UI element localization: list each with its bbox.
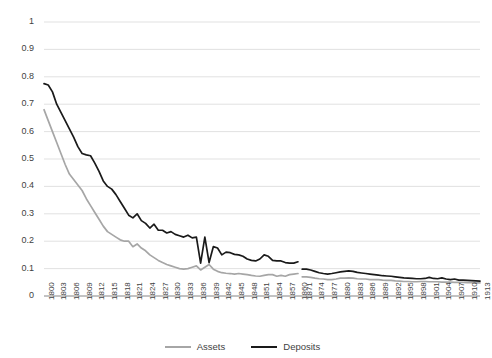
- x-axis-tick-label: 1815: [111, 282, 119, 300]
- y-axis-tick-label: 0.9: [4, 44, 34, 53]
- x-axis-tick-label: 1848: [251, 282, 259, 300]
- gridlines: [44, 22, 480, 269]
- y-axis-tick-label: 1: [4, 17, 34, 26]
- x-axis-tick-label: 1871: [306, 282, 314, 300]
- x-axis-tick-label: 1883: [357, 282, 365, 300]
- y-axis-tick-label: 0.3: [4, 209, 34, 218]
- x-axis-tick-label: 1806: [73, 282, 81, 300]
- x-axis-tick-label: 1830: [174, 282, 182, 300]
- legend-swatch-assets: [165, 346, 191, 348]
- y-axis-tick-label: 0.1: [4, 264, 34, 273]
- y-axis-tick-label: 0.6: [4, 127, 34, 136]
- x-axis-tick-label: 1821: [136, 282, 144, 300]
- x-axis-tick-label: 1851: [263, 282, 271, 300]
- x-axis-tick-label: 1904: [445, 282, 453, 300]
- x-axis-tick-label: 1818: [124, 282, 132, 300]
- x-axis-tick-label: 1800: [48, 282, 56, 300]
- x-axis-tick-label: 1836: [200, 282, 208, 300]
- legend-item-assets[interactable]: Assets: [165, 342, 226, 352]
- data-series-group: [44, 84, 480, 283]
- series-line-deposits: [44, 84, 298, 263]
- y-axis-tick-label: 0.5: [4, 154, 34, 163]
- y-axis-tick-label: 0: [4, 291, 34, 300]
- x-axis-tick-label: 1824: [149, 282, 157, 300]
- x-axis-tick-label: 1833: [187, 282, 195, 300]
- x-axis-tick-label: 1803: [60, 282, 68, 300]
- legend-label-deposits: Deposits: [283, 342, 320, 352]
- legend-item-deposits[interactable]: Deposits: [251, 342, 320, 352]
- y-axis-tick-label: 0.4: [4, 181, 34, 190]
- x-axis-tick-label: 1809: [86, 282, 94, 300]
- chart-legend: Assets Deposits: [0, 342, 485, 352]
- y-axis-tick-label: 0.2: [4, 236, 34, 245]
- x-axis-tick-label: 1827: [162, 282, 170, 300]
- series-line-assets: [44, 110, 298, 277]
- x-axis-tick-label: 1886: [369, 282, 377, 300]
- x-axis-tick-label: 1857: [289, 282, 297, 300]
- x-axis-tick-label: 1892: [395, 282, 403, 300]
- x-axis-tick-label: 1845: [238, 282, 246, 300]
- x-axis-tick-label: 1854: [276, 282, 284, 300]
- legend-swatch-deposits: [251, 346, 277, 348]
- x-axis-tick-label: 1874: [318, 282, 326, 300]
- legend-label-assets: Assets: [197, 342, 226, 352]
- x-axis-tick-label: 1907: [458, 282, 466, 300]
- x-axis-tick-label: 1889: [382, 282, 390, 300]
- y-axis-tick-label: 0.7: [4, 99, 34, 108]
- x-axis-tick-label: 1842: [225, 282, 233, 300]
- x-axis-tick-label: 1895: [407, 282, 415, 300]
- x-axis-tick-label: 1812: [98, 282, 106, 300]
- y-axis-tick-label: 0.8: [4, 72, 34, 81]
- x-axis-tick-label: 1877: [331, 282, 339, 300]
- x-axis-tick-label: 1898: [420, 282, 428, 300]
- x-axis-tick-label: 1901: [433, 282, 441, 300]
- x-axis-tick-label: 1913: [484, 282, 492, 300]
- x-axis-tick-label: 1910: [471, 282, 479, 300]
- x-axis-tick-label: 1880: [344, 282, 352, 300]
- x-axis-tick-label: 1839: [213, 282, 221, 300]
